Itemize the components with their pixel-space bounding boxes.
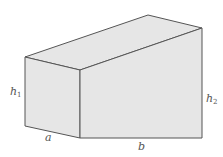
label-b: b: [138, 140, 145, 153]
label-a: a: [45, 131, 52, 144]
front-face: [25, 57, 80, 138]
label-h2: h2: [206, 92, 218, 106]
label-h1: h1: [10, 85, 22, 99]
prism-diagram: h1 h2 a b: [0, 0, 223, 157]
